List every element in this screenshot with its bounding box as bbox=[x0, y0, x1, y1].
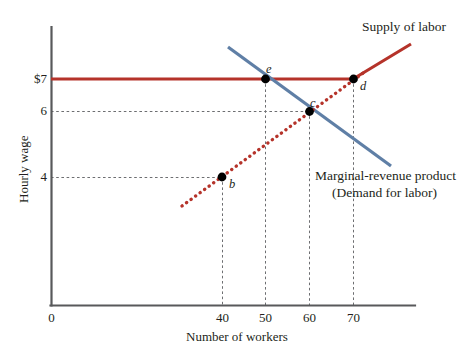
x-tick-label-70: 70 bbox=[342, 311, 365, 324]
x-tick-label-50: 50 bbox=[254, 311, 277, 324]
point-b bbox=[218, 173, 227, 182]
x-tick-label-40: 40 bbox=[211, 311, 234, 324]
axes bbox=[51, 27, 416, 306]
point-label-d: d bbox=[360, 80, 366, 93]
y-axis-title: Hourly wage bbox=[17, 135, 30, 203]
y-tick-label-6: 6 bbox=[22, 104, 47, 117]
y-tick-label-7: $7 bbox=[22, 72, 47, 85]
x-tick-label-0: 0 bbox=[42, 311, 61, 324]
labor-market-chart: $7 6 4 0 40 50 60 70 Hourly wage Number … bbox=[0, 0, 462, 352]
x-axis-title: Number of workers bbox=[186, 330, 288, 343]
point-label-c: c bbox=[310, 97, 316, 110]
x-tick-label-60: 60 bbox=[298, 311, 321, 324]
supply-of-labor-label: Supply of labor bbox=[362, 20, 446, 34]
mrp-label-line1: Marginal-revenue product bbox=[315, 169, 456, 183]
mrp-label-line2: (Demand for labor) bbox=[332, 186, 437, 200]
point-label-b: b bbox=[229, 178, 235, 191]
point-d bbox=[349, 75, 358, 84]
point-label-e: e bbox=[266, 63, 272, 76]
